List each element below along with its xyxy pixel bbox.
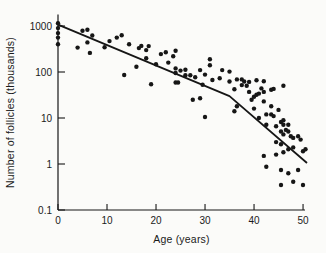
data-point — [144, 48, 148, 52]
data-point — [220, 68, 224, 72]
data-point — [200, 83, 204, 87]
data-point — [291, 180, 295, 184]
data-point — [281, 84, 285, 88]
data-point — [102, 45, 106, 49]
data-point — [281, 150, 285, 154]
data-point — [159, 52, 163, 56]
data-point — [274, 152, 278, 156]
data-point — [210, 78, 214, 82]
data-point — [80, 29, 84, 33]
y-tick-label: 100 — [35, 67, 52, 78]
data-point — [88, 51, 92, 55]
data-point — [166, 60, 170, 64]
data-point — [85, 40, 89, 44]
data-point — [232, 87, 236, 91]
y-tick-label: 1 — [46, 159, 52, 170]
data-point — [85, 28, 89, 32]
data-point — [235, 104, 239, 108]
data-point — [247, 90, 251, 94]
data-point — [262, 154, 266, 158]
x-tick-label: 30 — [199, 215, 211, 226]
x-tick-label: 20 — [150, 215, 162, 226]
data-point — [188, 73, 192, 77]
data-point — [203, 115, 207, 119]
data-point — [193, 75, 197, 79]
data-point — [208, 57, 212, 61]
data-point — [281, 123, 285, 127]
data-point — [301, 183, 305, 187]
data-point — [183, 68, 187, 72]
follicle-decline-figure: 10001001010.101020304050 Number of folli… — [0, 0, 326, 253]
data-point — [286, 123, 290, 127]
data-point — [286, 147, 290, 151]
data-point — [208, 63, 212, 67]
data-point — [90, 33, 94, 37]
data-point — [271, 87, 275, 91]
data-point — [271, 114, 275, 118]
data-point — [203, 72, 207, 76]
data-point — [149, 82, 153, 86]
data-point — [198, 96, 202, 100]
data-point — [296, 168, 300, 172]
x-tick-label: 10 — [101, 215, 113, 226]
data-point — [264, 112, 268, 116]
data-point — [274, 124, 278, 128]
data-point — [56, 35, 60, 39]
data-point — [276, 108, 280, 112]
scatter-plot: 10001001010.101020304050 — [0, 0, 326, 253]
data-point — [164, 50, 168, 54]
data-point — [227, 79, 231, 83]
data-point — [232, 109, 236, 113]
data-point — [291, 145, 295, 149]
y-axis-title: Number of follicles (thousands) — [4, 13, 16, 212]
data-point — [279, 183, 283, 187]
data-point — [269, 104, 273, 108]
data-point — [56, 42, 60, 46]
data-point — [240, 83, 244, 87]
data-point — [171, 54, 175, 58]
data-point — [198, 68, 202, 72]
data-point — [144, 56, 148, 60]
data-point — [56, 31, 60, 35]
data-point — [298, 137, 302, 141]
data-point — [262, 90, 266, 94]
y-tick-label: 1000 — [30, 21, 53, 32]
data-point — [262, 99, 266, 103]
data-point — [178, 68, 182, 72]
data-point — [262, 79, 266, 83]
data-point — [252, 106, 256, 110]
data-point — [120, 33, 124, 37]
data-point — [139, 44, 143, 48]
data-point — [127, 42, 131, 46]
data-point — [56, 21, 60, 25]
data-point — [75, 45, 79, 49]
data-point — [218, 76, 222, 80]
data-point — [183, 73, 187, 77]
data-point — [154, 62, 158, 66]
y-tick-label: 0.1 — [38, 205, 52, 216]
data-point — [257, 116, 261, 120]
y-tick-label: 10 — [41, 113, 53, 124]
data-point — [134, 65, 138, 69]
data-point — [291, 136, 295, 140]
data-point — [56, 26, 60, 30]
data-point — [303, 147, 307, 151]
x-axis-title: Age (years) — [58, 233, 305, 245]
data-point — [281, 118, 285, 122]
data-point — [191, 98, 195, 102]
data-point — [264, 123, 268, 127]
data-point — [245, 84, 249, 88]
data-point — [257, 91, 261, 95]
data-point — [122, 73, 126, 77]
data-point — [274, 140, 278, 144]
data-point — [147, 44, 151, 48]
data-point — [279, 142, 283, 146]
data-point — [173, 66, 177, 70]
x-tick-label: 40 — [248, 215, 260, 226]
data-point — [286, 171, 290, 175]
data-point — [286, 129, 290, 133]
data-point — [227, 69, 231, 73]
data-point — [264, 165, 268, 169]
x-tick-label: 0 — [55, 215, 61, 226]
x-tick-label: 50 — [297, 215, 309, 226]
